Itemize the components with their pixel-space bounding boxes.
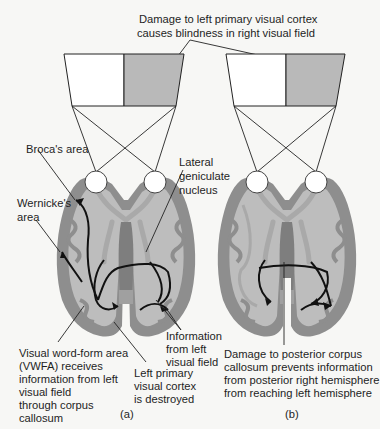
top-caption-line-2: causes blindness in right visual field [137, 27, 315, 39]
projection-line [155, 106, 176, 172]
label-vwfa-6: callosum [19, 412, 63, 424]
label-vwfa-1: Visual word-form area [19, 347, 129, 359]
label-info-1: Information [166, 330, 222, 342]
label-vwfa-3: information from left [19, 373, 119, 385]
panel-b: Damage to posterior corpus callosum prev… [218, 54, 380, 420]
label-v1-3: is destroyed [134, 393, 194, 405]
top-caption-line-1: Damage to left primary visual cortex [139, 13, 318, 25]
right-visual-field-blind-b [286, 54, 345, 106]
label-info-3: visual field [166, 356, 218, 368]
label-lgn-2: geniculate [179, 170, 230, 182]
brain-a [57, 171, 195, 337]
label-v1-1: Left primary [134, 367, 193, 379]
left-visual-field-a [64, 54, 124, 106]
panel-a: Broca's area Wernicke's area Lateral gen… [17, 54, 230, 424]
label-vwfa-5: through corpus [19, 399, 94, 411]
label-callosum-1: Damage to posterior corpus [224, 348, 362, 360]
projection-line [234, 106, 257, 172]
wernicke-leader [36, 220, 60, 252]
panel-label-b: (b) [285, 408, 299, 420]
label-callosum-4: from reaching left hemisphere [224, 387, 372, 399]
lgn-right-a [144, 171, 166, 193]
label-broca: Broca's area [26, 143, 89, 155]
projection-line [316, 106, 336, 172]
label-v1-2: visual cortex [134, 380, 197, 392]
label-wernicke-2: area [17, 211, 40, 223]
projection-line [257, 106, 336, 172]
right-visual-field-blind-a [124, 54, 184, 106]
lgn-left-a [85, 171, 107, 193]
alexia-diagram: Damage to left primary visual cortex cau… [0, 0, 380, 429]
brain-b [218, 171, 356, 338]
broca-leader [38, 150, 75, 200]
label-lgn-1: Lateral [179, 156, 213, 168]
label-callosum-3: from posterior right hemisphere [224, 374, 379, 386]
panel-label-a: (a) [120, 408, 134, 420]
projection-line [234, 106, 316, 172]
label-vwfa-4: visual field [19, 386, 71, 398]
left-visual-field-b [226, 54, 286, 106]
projection-line [96, 106, 176, 172]
label-lgn-3: nucleus [179, 184, 218, 196]
label-wernicke-1: Wernicke's [17, 197, 72, 209]
label-info-2: from left [166, 343, 207, 355]
label-vwfa-2: (VWFA) receives [19, 360, 103, 372]
label-callosum-2: callosum prevents information [224, 361, 373, 373]
